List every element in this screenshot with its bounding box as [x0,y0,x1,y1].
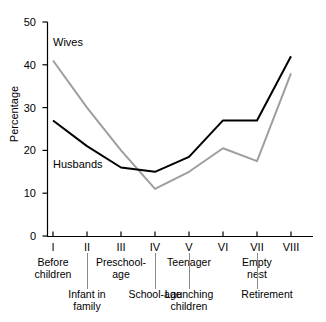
y-tick-label-20: 20 [10,144,36,156]
caption-line-2: age [83,269,159,281]
chart-figure: Percentage 50 40 30 20 10 0 Wives Husban… [0,0,326,322]
caption-line-1: Infant in [49,289,125,301]
leader-line-viii [257,253,258,289]
y-axis-title: Percentage [8,74,20,154]
x-tick-label-ii: II [70,241,104,253]
x-tick-label-iv: IV [138,241,172,253]
y-tick-label-0: 0 [10,230,36,242]
x-tick-label-v: V [172,241,206,253]
caption-line-1: Retirement [219,289,315,301]
stage-caption-retirement: Retirement [219,289,315,301]
leader-line-ii [87,253,88,289]
y-tick-marks [43,22,48,236]
caption-line-1: Preschool- [83,257,159,269]
y-tick-label-40: 40 [10,59,36,71]
x-tick-label-iii: III [104,241,138,253]
series-label-wives: Wives [53,36,83,48]
stage-caption-launching-children: Launching children [151,289,227,312]
x-tick-marks [53,232,291,237]
y-tick-label-10: 10 [10,187,36,199]
stage-caption-before-children: Before children [15,257,91,280]
caption-line-2: family [49,301,125,313]
leader-line-iv [155,253,156,289]
y-tick-label-50: 50 [10,16,36,28]
series-label-husbands: Husbands [53,158,103,170]
leader-line-vi [189,253,190,289]
x-tick-label-viii: VIII [274,241,308,253]
x-tick-label-i: I [36,241,70,253]
x-tick-label-vii: VII [240,241,274,253]
caption-line-1: Launching [151,289,227,301]
caption-line-2: children [15,269,91,281]
x-tick-label-vi: VI [206,241,240,253]
caption-line-2: children [151,301,227,313]
caption-line-1: Before [15,257,91,269]
stage-caption-infant-in-family: Infant in family [49,289,125,312]
series-line-husbands [53,56,291,172]
y-tick-label-30: 30 [10,102,36,114]
stage-caption-preschool-age: Preschool- age [83,257,159,280]
